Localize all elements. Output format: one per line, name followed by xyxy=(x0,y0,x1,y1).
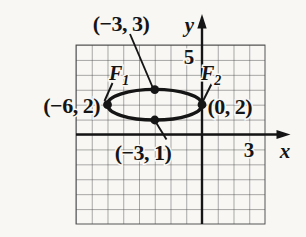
ellipse-graph-canvas: (−3, 3) (−6, 2) (0, 2) (−3, 1) F1 F2 y 5… xyxy=(0,0,306,237)
point-dot-bottom-covertex xyxy=(150,116,159,125)
focus-f2-subscript: 2 xyxy=(213,73,221,88)
point-dot-left-vertex xyxy=(103,100,112,109)
focus-f1-letter: F xyxy=(108,62,123,84)
y-tick-label-5: 5 xyxy=(184,45,195,69)
point-label-right-vertex: (0, 2) xyxy=(208,94,253,119)
point-label-left-vertex: (−6, 2) xyxy=(43,93,100,118)
y-axis-arrowhead xyxy=(197,14,206,29)
x-tick-label-3: 3 xyxy=(244,138,255,162)
ellipse-graph-figure: (−3, 3) (−6, 2) (0, 2) (−3, 1) F1 F2 y 5… xyxy=(0,0,306,237)
x-axis-arrowhead xyxy=(277,130,291,139)
point-dot-top-covertex xyxy=(150,85,159,94)
point-label-top-covertex: (−3, 3) xyxy=(93,11,150,36)
point-dot-right-vertex xyxy=(198,100,207,109)
focus-f2-letter: F xyxy=(200,62,215,84)
point-label-bottom-covertex: (−3, 1) xyxy=(115,140,172,165)
focus-f1-subscript: 1 xyxy=(122,73,129,88)
y-axis-label: y xyxy=(182,13,195,37)
x-axis-label: x xyxy=(279,139,291,163)
